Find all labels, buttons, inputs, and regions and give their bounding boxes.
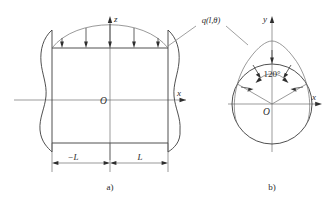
panel-b-origin-label: O — [263, 107, 270, 117]
load-arrow — [132, 28, 136, 48]
load-arrow — [108, 24, 112, 48]
load-function-label: q(l,θ) — [202, 15, 221, 25]
panel-b-group: y x O 120° b) — [228, 14, 322, 192]
panel-a-x-axis-label: x — [176, 88, 181, 98]
panel-b-y-axis-label: y — [262, 14, 267, 24]
panel-a-z-axis-label: z — [113, 14, 118, 24]
technical-figure: z x O −L L a) q(l,θ) — [0, 0, 335, 205]
panel-a-left-break-symbol — [40, 30, 52, 152]
figure-canvas: z x O −L L a) q(l,θ) — [0, 0, 335, 205]
load-function-annotation: q(l,θ) — [168, 15, 248, 46]
panel-b-x-axis-label: x — [311, 92, 316, 102]
panel-b-angle-label: 120° — [263, 69, 281, 79]
panel-a-load-arrows — [60, 24, 160, 48]
panel-a-caption: a) — [107, 182, 114, 192]
panel-a-group: z x O −L L a) — [14, 14, 186, 192]
load-arrow — [270, 50, 274, 64]
panel-b-caption: b) — [268, 182, 276, 192]
panel-a-dimension-left — [52, 161, 110, 165]
panel-a-origin-label: O — [100, 96, 107, 106]
panel-b-y-axis — [270, 16, 274, 152]
panel-a-dimension-right-label: L — [136, 152, 142, 162]
panel-a-dimension-left-label: −L — [67, 152, 78, 162]
load-arrow — [84, 28, 88, 48]
